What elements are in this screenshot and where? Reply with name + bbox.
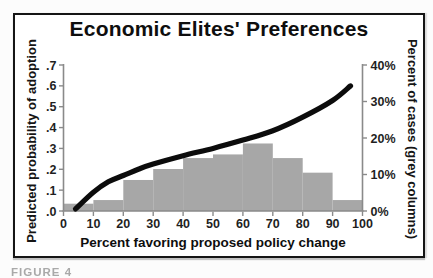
x-axis-tick-label: 0 [60, 217, 67, 231]
x-axis-tick-label: 90 [326, 217, 340, 231]
left-axis-tick-label: .5 [46, 100, 56, 114]
x-axis-tick-label: 40 [176, 217, 190, 231]
histogram-bar [333, 200, 363, 211]
x-axis-tick-label: 100 [352, 217, 373, 231]
left-axis-tick-label: .4 [46, 121, 56, 135]
right-axis-tick-label: 40% [371, 59, 396, 73]
left-axis-tick-label: .6 [46, 79, 56, 93]
left-axis-tick-label: .0 [46, 205, 56, 219]
x-axis-tick-label: 70 [266, 217, 280, 231]
figure-caption-fragment: FIGURE 4 [11, 266, 72, 278]
left-axis-tick-label: .2 [46, 163, 56, 177]
histogram-bar [123, 180, 153, 211]
histogram-bar [213, 154, 243, 211]
histogram-bar [303, 173, 333, 211]
x-axis-tick-label: 50 [206, 217, 220, 231]
right-axis-tick-label: 10% [371, 168, 396, 182]
right-axis-tick-label: 30% [371, 95, 396, 109]
right-axis-tick-label: 0% [371, 205, 389, 219]
right-axis-tick-label: 20% [371, 132, 396, 146]
histogram-bar [183, 158, 213, 211]
x-axis-tick-label: 10 [86, 217, 100, 231]
x-axis-tick-label: 80 [296, 217, 310, 231]
left-axis-tick-label: .1 [46, 184, 56, 198]
histogram-bar [93, 200, 123, 211]
histogram-bar [273, 158, 303, 211]
left-axis-tick-label: .7 [46, 59, 56, 73]
x-axis-tick-label: 20 [116, 217, 130, 231]
left-axis-tick-label: .3 [46, 142, 56, 156]
histogram-bar [153, 169, 183, 211]
x-axis-tick-label: 30 [146, 217, 160, 231]
x-axis-tick-label: 60 [236, 217, 250, 231]
histogram-bar [243, 143, 273, 211]
